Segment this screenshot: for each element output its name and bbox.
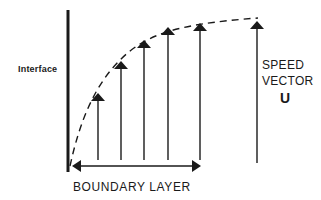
speed-vector-label-line2: VECTOR [262,74,314,88]
velocity-arrows [91,21,264,163]
boundary-layer-label: BOUNDARY LAYER [73,180,191,194]
interface-label: Interface [18,64,57,74]
arrowhead-icon [137,40,151,48]
boundary-layer-diagram [0,0,321,200]
speed-symbol-label: U [280,90,290,106]
arrowhead-icon [193,23,207,31]
arrowhead-left-icon [72,160,81,172]
arrowhead-right-icon [192,160,201,172]
arrowhead-icon [250,21,264,29]
speed-vector-label-line1: SPEED [262,58,304,72]
arrowhead-icon [161,27,175,35]
